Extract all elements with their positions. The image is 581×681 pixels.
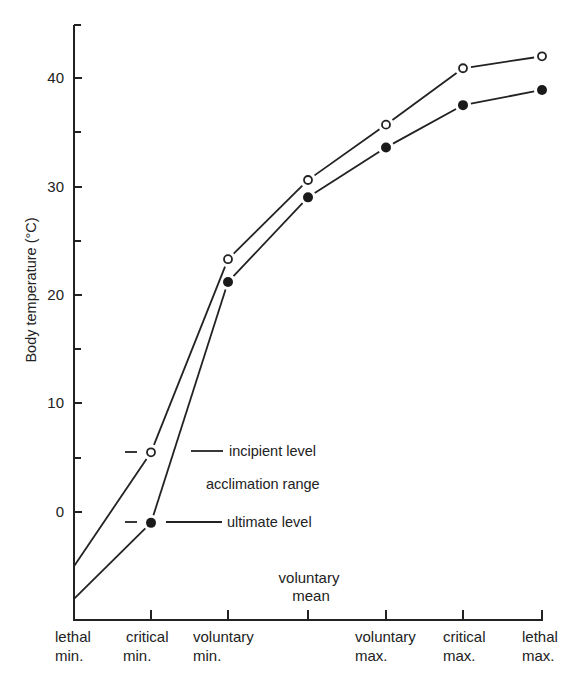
y-axis-label: Body temperature (°C): [23, 217, 39, 362]
series-segment: [234, 186, 303, 254]
filled-circle-marker: [223, 277, 233, 287]
series-segment: [154, 267, 225, 445]
x-label-critical-min-2: min.: [123, 647, 151, 664]
open-circle-marker: [224, 255, 232, 263]
open-circle-marker: [382, 121, 390, 129]
open-circle-marker: [538, 52, 546, 60]
incipient-level-label: incipient level: [229, 443, 316, 459]
series-segment: [471, 91, 534, 103]
x-label-critical-max-2: max.: [443, 647, 476, 664]
y-tick-10: 10: [47, 394, 64, 411]
x-label-voluntary-min-2: min.: [193, 647, 221, 664]
filled-circle-marker: [381, 142, 391, 152]
series-segment: [315, 152, 380, 193]
open-circle-marker: [459, 64, 467, 72]
ultimate-level-label: ultimate level: [227, 514, 312, 530]
acclimation-range-label: acclimation range: [206, 476, 320, 492]
filled-circle-marker: [303, 192, 313, 202]
series-segment: [315, 129, 380, 175]
y-tick-30: 30: [47, 178, 64, 195]
filled-circle-marker: [537, 85, 547, 95]
filled-circle-marker: [146, 518, 156, 528]
open-circle-marker: [147, 448, 155, 456]
open-circle-marker: [304, 176, 312, 184]
x-label-critical-max: critical: [443, 628, 486, 645]
x-label-voluntary-mean: voluntary: [279, 569, 340, 586]
filled-circle-marker: [458, 100, 468, 110]
x-label-voluntary-max-2: max.: [355, 647, 388, 664]
x-label-lethal-min-2: min.: [55, 647, 83, 664]
y-tick-labels: 40 30 20 10 0: [47, 69, 64, 520]
y-tick-40: 40: [47, 69, 64, 86]
series-segment: [74, 459, 147, 566]
series-segment: [471, 57, 534, 67]
y-tick-0: 0: [56, 503, 64, 520]
x-label-lethal-max: lethal: [522, 628, 558, 645]
x-label-voluntary-max: voluntary: [355, 628, 416, 645]
series-segment: [233, 203, 302, 276]
x-axis: [74, 610, 543, 620]
x-label-critical-min: critical: [126, 628, 169, 645]
series-segment: [392, 73, 456, 120]
x-category-labels: lethal min. critical min. voluntary min.…: [55, 569, 558, 664]
x-label-voluntary-mean-2: mean: [292, 587, 330, 604]
y-tick-20: 20: [47, 286, 64, 303]
x-label-lethal-min: lethal: [55, 628, 91, 645]
series-segment: [74, 528, 145, 598]
x-label-voluntary-min: voluntary: [193, 628, 254, 645]
x-label-lethal-max-2: max.: [522, 647, 555, 664]
y-axis: [74, 25, 82, 621]
acclimation-chart: 40 30 20 10 0 Body temperature (°C) leth…: [0, 0, 581, 681]
series-segment: [393, 109, 456, 144]
